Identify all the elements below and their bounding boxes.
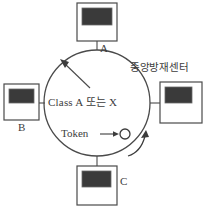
node-bottom[interactable]	[77, 166, 117, 205]
node-top-screen-icon	[82, 8, 112, 25]
ring-pointer-arrow	[60, 59, 90, 88]
node-top[interactable]	[77, 3, 117, 41]
node-bottom-screen-icon	[82, 171, 111, 187]
ring-center-label: Class A 또는 X	[48, 97, 117, 108]
diagram-canvas: A B 중앙방재센터 C Class A 또는 X Token	[0, 0, 208, 208]
node-right-screen-icon	[165, 87, 192, 103]
node-top-label: A	[100, 43, 108, 54]
token-arrow	[100, 131, 119, 137]
token-arrow-head	[113, 131, 119, 137]
node-bottom-label: C	[120, 176, 127, 187]
node-left[interactable]	[4, 84, 39, 120]
node-right[interactable]	[160, 82, 202, 123]
node-left-screen-icon	[9, 89, 34, 103]
node-left-label: B	[18, 122, 25, 133]
ring-pointer-shaft	[64, 63, 90, 88]
node-right-label: 중앙방재센터	[130, 62, 188, 73]
token-marker-icon	[120, 129, 130, 139]
token-label: Token	[61, 128, 88, 139]
